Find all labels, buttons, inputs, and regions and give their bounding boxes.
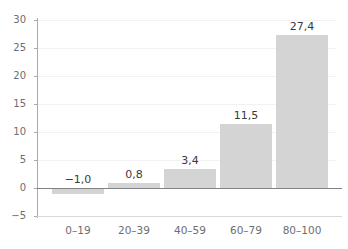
y-tick-25 <box>34 48 38 49</box>
x-axis-label-0-19: 0–19 <box>52 224 104 236</box>
y-tick-20 <box>34 76 38 77</box>
y-tick-5 <box>34 160 38 161</box>
x-axis-label-80-100: 80–100 <box>276 224 328 236</box>
clipped-chart-title <box>0 0 348 6</box>
axis-bottom-rule <box>37 216 342 217</box>
y-tick-15 <box>34 104 38 105</box>
y-tick-30 <box>34 20 38 21</box>
x-axis-label-40-59: 40–59 <box>164 224 216 236</box>
zero-baseline <box>37 188 342 189</box>
bar-value-0-19: −1,0 <box>52 174 104 186</box>
bar-value-40-59: 3,4 <box>164 155 216 167</box>
bar-value-20-39: 0,8 <box>108 169 160 181</box>
bar-60-79 <box>220 124 272 188</box>
y-tick-10 <box>34 132 38 133</box>
bar-value-80-100: 27,4 <box>276 21 328 33</box>
x-axis-label-20-39: 20–39 <box>108 224 160 236</box>
bar-chart: 30 25 20 15 10 5 0 −5 −1,0 0,8 3,4 11,5 … <box>0 0 348 249</box>
bar-value-60-79: 11,5 <box>220 110 272 122</box>
bar-80-100 <box>276 35 328 188</box>
x-axis-label-60-79: 60–79 <box>220 224 272 236</box>
bar-40-59 <box>164 169 216 188</box>
